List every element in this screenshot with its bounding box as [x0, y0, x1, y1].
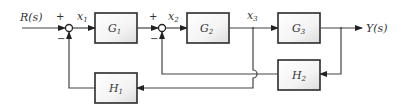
output-branch-point — [340, 27, 342, 29]
input-label: R(s) — [19, 11, 43, 24]
signal-x1-label: x1 — [77, 10, 88, 24]
signal-x3-label: x3 — [247, 9, 258, 23]
sum2-minus-sign: − — [150, 33, 158, 44]
h2-feedback-input-wire — [320, 28, 341, 74]
output-label: Y(s) — [366, 22, 388, 35]
x3-branch-point — [252, 27, 254, 29]
h1-feedback-output-wire — [69, 32, 95, 88]
sum1-plus-sign: + — [56, 11, 64, 22]
block-diagram: R(s) + − x1 G1 + − x2 G2 x3 G3 Y(s) H2 H… — [0, 0, 409, 109]
sum1-minus-sign: − — [57, 33, 65, 44]
summing-junction-2 — [159, 25, 166, 32]
summing-junction-1 — [66, 25, 73, 32]
sum2-plus-sign: + — [149, 11, 157, 22]
signal-x2-label: x2 — [168, 10, 179, 24]
